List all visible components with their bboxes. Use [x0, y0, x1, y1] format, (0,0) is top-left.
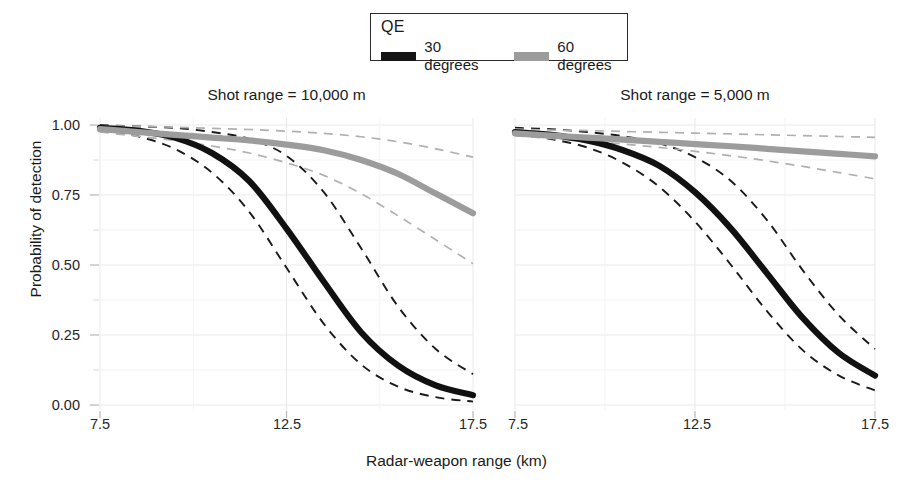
legend-item-30-degrees[interactable]: 30 degrees [381, 38, 494, 74]
chart-figure: QE 30 degrees 60 degrees Shot range = 10… [0, 0, 913, 493]
legend-title: QE [381, 17, 627, 36]
gridlines-left-panel [100, 118, 473, 410]
legend-item-60-degrees[interactable]: 60 degrees [514, 38, 627, 74]
legend-swatch-60-degrees [514, 52, 549, 61]
panel-title-left: Shot range = 10,000 m [100, 86, 473, 104]
legend: QE 30 degrees 60 degrees [370, 13, 628, 61]
legend-label-30-degrees: 30 degrees [424, 38, 494, 74]
legend-entries: 30 degrees 60 degrees [381, 38, 627, 74]
legend-swatch-30-degrees [381, 52, 416, 61]
legend-label-60-degrees: 60 degrees [557, 38, 627, 74]
gridlines-right-panel [515, 118, 875, 410]
panel-title-right: Shot range = 5,000 m [515, 86, 875, 104]
